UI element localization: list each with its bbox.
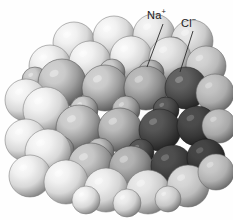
- label-chloride-charge: −: [192, 15, 197, 24]
- label-chloride-text: Cl: [181, 17, 192, 29]
- label-chloride-ion: Cl−: [181, 17, 196, 29]
- label-sodium-ion: Na+: [147, 9, 166, 21]
- label-sodium-charge: +: [161, 7, 166, 16]
- label-sodium-text: Na: [147, 9, 161, 21]
- chloride-ion-sphere: [198, 154, 233, 190]
- chloride-ion-sphere: [113, 189, 141, 217]
- chloride-ion-sphere: [72, 186, 100, 214]
- chloride-ion-sphere: [202, 109, 233, 143]
- chloride-ion-sphere: [155, 186, 181, 212]
- nacl-crystal-figure: Na+ Cl−: [0, 0, 233, 220]
- crystal-lattice-svg: [0, 0, 233, 220]
